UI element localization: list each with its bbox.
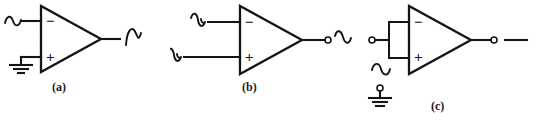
sine-wave-icon-input [5, 17, 21, 26]
inverting-sign: − [414, 14, 423, 30]
sine-wave-icon-input-noninverting [170, 49, 181, 61]
panel-c-schematic: − + [355, 0, 536, 134]
left-input-terminal-node [369, 37, 375, 43]
panel-a-schematic: − + [0, 0, 180, 134]
panel-a: − + (a) [0, 0, 180, 134]
panel-c-caption: (c) [431, 99, 444, 114]
output-terminal-node [491, 37, 497, 43]
noninverting-sign: + [414, 49, 423, 65]
inverting-sign: − [245, 14, 254, 30]
input-resistor-box [389, 22, 409, 58]
noninverting-sign: + [46, 49, 55, 65]
opamp-figure: − + (a) − + (b) [0, 0, 536, 134]
sine-wave-icon-source [372, 64, 390, 75]
panel-a-caption: (a) [52, 80, 66, 95]
sine-wave-icon-output [126, 29, 141, 45]
panel-b-caption: (b) [242, 80, 257, 95]
panel-c: − + (c) [355, 0, 536, 134]
inverting-sign: − [46, 13, 55, 29]
panel-b-schematic: − + [170, 0, 360, 134]
sine-wave-icon-output [335, 31, 351, 43]
panel-b: − + (b) [170, 0, 360, 134]
noninverting-sign: + [245, 49, 254, 65]
output-terminal-node [325, 37, 331, 43]
sine-wave-icon-input-inverting [191, 14, 205, 26]
